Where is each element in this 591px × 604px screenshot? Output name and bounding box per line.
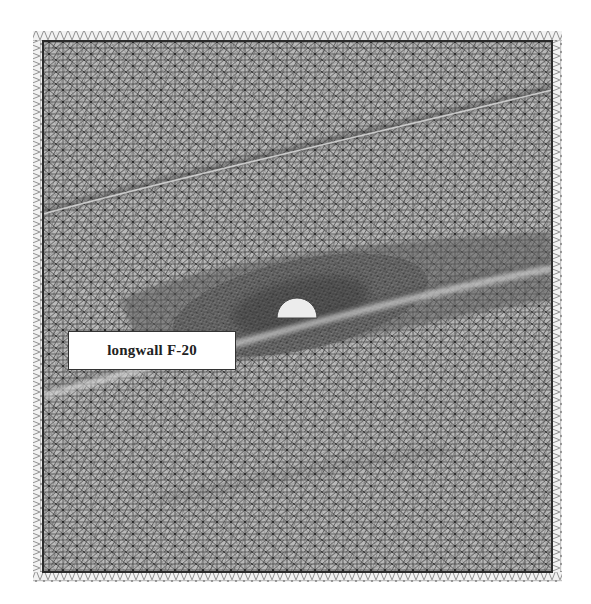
longwall-label: longwall F-20 (107, 342, 197, 359)
longwall-label-box: longwall F-20 (68, 331, 236, 370)
mesh-figure (0, 0, 591, 604)
